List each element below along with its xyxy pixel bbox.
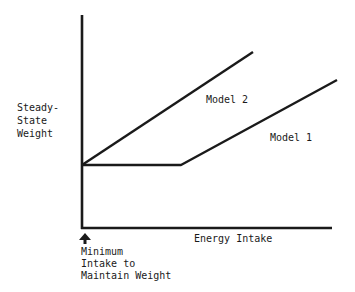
model-1-line (82, 80, 337, 165)
model-2-label: Model 2 (206, 94, 248, 106)
annotation-line-1: Minimum (81, 246, 123, 258)
x-axis-label: Energy Intake (194, 233, 272, 245)
model-1-label: Model 1 (270, 132, 312, 144)
chart-canvas (0, 0, 355, 292)
model-2-line (82, 52, 253, 165)
annotation-line-3: Maintain Weight (81, 270, 171, 282)
annotation-line-2: Intake to (81, 258, 135, 270)
y-axis-label-line-2: State (17, 115, 47, 127)
y-axis-label-line-1: Steady- (17, 102, 59, 114)
up-arrow-icon (79, 233, 91, 244)
y-axis-label-line-3: Weight (17, 128, 53, 140)
